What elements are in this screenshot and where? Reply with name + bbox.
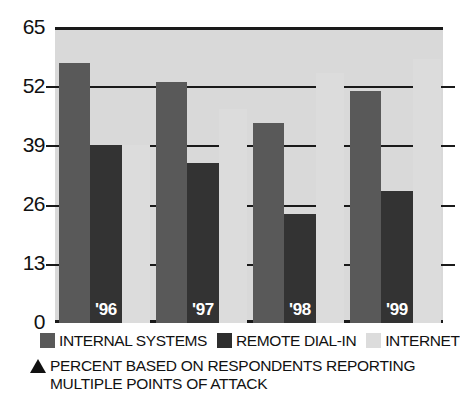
bar-groups: '96 '97 '98	[55, 27, 443, 323]
year-label-96: '96	[90, 301, 122, 318]
y-tick-label-65: 65	[0, 16, 45, 37]
legend-item-internal-systems: INTERNAL SYSTEMS	[40, 333, 207, 349]
footnote-line-1: PERCENT BASED ON RESPONDENTS REPORTING	[50, 357, 415, 374]
bar-98-internal-systems	[253, 123, 284, 323]
bar-96-internet	[122, 145, 150, 323]
bar-98-remote-dial-in: '98	[284, 214, 316, 323]
left-tick-39	[46, 145, 55, 147]
bar-97-internal-systems	[156, 82, 187, 323]
left-tick-26	[46, 205, 55, 207]
plot-area: '96 '97 '98	[55, 27, 443, 323]
chart-footnote: PERCENT BASED ON RESPONDENTS REPORTINGMU…	[30, 357, 450, 393]
bar-98-internet	[316, 73, 344, 323]
legend-item-internet: INTERNET	[366, 333, 459, 349]
footnote-text: PERCENT BASED ON RESPONDENTS REPORTINGMU…	[50, 357, 415, 393]
left-tick-13	[46, 264, 55, 266]
bar-96-remote-dial-in: '96	[90, 145, 122, 323]
right-tick-52	[443, 86, 455, 88]
bar-group-99: '99	[346, 27, 443, 323]
legend-swatch-remote-dial-in-icon	[217, 333, 232, 348]
bar-99-internal-systems	[350, 91, 381, 323]
right-tick-13	[443, 264, 455, 266]
legend-item-remote-dial-in: REMOTE DIAL-IN	[217, 333, 356, 349]
bar-group-98: '98	[249, 27, 346, 323]
legend-swatch-internet-icon	[366, 333, 381, 348]
footnote-line-2: MULTIPLE POINTS OF ATTACK	[50, 375, 267, 392]
y-tick-label-39: 39	[0, 134, 45, 155]
bar-group-97: '97	[152, 27, 249, 323]
legend-label-remote-dial-in: REMOTE DIAL-IN	[236, 333, 356, 349]
bar-97-internet	[219, 109, 247, 323]
year-label-99: '99	[381, 301, 413, 318]
legend-label-internal-systems: INTERNAL SYSTEMS	[59, 333, 207, 349]
bar-99-internet	[413, 59, 441, 323]
year-label-97: '97	[187, 301, 219, 318]
y-tick-label-13: 13	[0, 252, 45, 273]
right-tick-39	[443, 145, 455, 147]
bar-97-remote-dial-in: '97	[187, 163, 219, 323]
chart-legend: INTERNAL SYSTEMS REMOTE DIAL-IN INTERNET	[40, 333, 452, 349]
legend-label-internet: INTERNET	[385, 333, 459, 349]
bar-group-96: '96	[55, 27, 152, 323]
y-tick-label-26: 26	[0, 193, 45, 214]
right-tick-26	[443, 205, 455, 207]
y-tick-label-0: 0	[0, 311, 45, 332]
legend-swatch-internal-systems-icon	[40, 333, 55, 348]
year-label-98: '98	[284, 301, 316, 318]
triangle-bullet-icon	[30, 359, 46, 373]
bar-99-remote-dial-in: '99	[381, 191, 413, 323]
left-tick-52	[46, 86, 55, 88]
bar-96-internal-systems	[59, 63, 90, 323]
y-tick-label-52: 52	[0, 75, 45, 96]
